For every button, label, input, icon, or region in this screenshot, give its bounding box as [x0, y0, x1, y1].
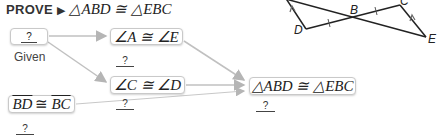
- angle-cd-reason: ?: [116, 98, 134, 110]
- angle-ae-box: ∠A ≅ ∠E: [110, 28, 183, 45]
- angle-cd-box: ∠C ≅ ∠D: [110, 76, 185, 94]
- triangle-right-icon: ▶: [57, 4, 65, 17]
- given-statement-blank: ?: [21, 31, 37, 43]
- given-statement-box: ?: [10, 28, 48, 45]
- segments-box: BD ≅ BC: [8, 95, 75, 113]
- prove-keyword: PROVE: [6, 2, 53, 17]
- label-c: C: [400, 0, 409, 8]
- label-e: E: [428, 32, 436, 46]
- congruent-symbol: ≅: [35, 95, 48, 113]
- conclusion-box: △ABD ≅ △EBC: [249, 77, 356, 95]
- prove-statement: PROVE▶△ABD ≅ △EBC: [6, 0, 171, 18]
- geometry-diagram: [0, 0, 438, 139]
- prove-goal: △ABD ≅ △EBC: [69, 1, 171, 17]
- label-b: B: [350, 3, 358, 17]
- given-reason: Given: [14, 50, 45, 64]
- segment-bd: BD: [12, 96, 32, 113]
- label-d: D: [294, 23, 303, 37]
- angle-ae-reason: ?: [116, 55, 134, 67]
- segment-bc: BC: [51, 96, 70, 113]
- segments-reason: ?: [16, 123, 34, 135]
- conclusion-reason: ?: [256, 100, 275, 112]
